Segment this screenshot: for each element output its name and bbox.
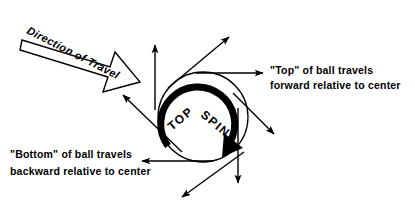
spin-label-spin: SPIN: [198, 108, 233, 141]
vector-upper-right-diagonal: [168, 37, 229, 88]
diagram-canvas: Direction of Travel TOP SPIN: [0, 0, 415, 209]
bottom-annotation: "Bottom" of ball travels backward relati…: [10, 148, 151, 177]
top-annotation-line1: "Top" of ball travels: [270, 64, 373, 76]
direction-of-travel-arrow: [20, 40, 140, 92]
vector-bottom-left-diagonal: [182, 152, 244, 197]
top-annotation: "Top" of ball travels forward relative t…: [270, 64, 401, 91]
top-annotation-line2: forward relative to center: [270, 79, 401, 91]
vector-right-lower-diagonal: [233, 93, 274, 134]
topspin-diagram: Direction of Travel TOP SPIN: [0, 0, 415, 209]
bottom-annotation-line2: backward relative to center: [10, 165, 151, 177]
bottom-annotation-line1: "Bottom" of ball travels: [10, 148, 132, 160]
top-spin-label: TOP SPIN: [165, 104, 233, 140]
spin-label-top: TOP: [165, 104, 196, 133]
